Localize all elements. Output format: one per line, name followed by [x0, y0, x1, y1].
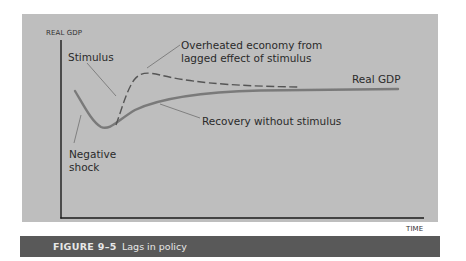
leader-overheated — [147, 45, 180, 68]
annotation-overheated-2: lagged effect of stimulus — [181, 52, 311, 64]
figure-title: Lags in policy — [122, 236, 187, 257]
annotation-negative-1: Negative — [69, 148, 116, 160]
figure-caption: FIGURE 9–5 Lags in policy — [20, 236, 440, 257]
annotation-stimulus: Stimulus — [68, 51, 114, 63]
annotation-overheated-1: Overheated economy from — [181, 39, 322, 51]
leader-recovery — [160, 104, 200, 118]
annotation-recovery: Recovery without stimulus — [202, 115, 341, 127]
y-axis-label: REAL GDP — [46, 29, 82, 37]
annotation-negative-2: shock — [69, 161, 99, 173]
leader-stimulus — [87, 63, 116, 96]
figure-number: FIGURE 9–5 — [53, 236, 117, 257]
x-axis-label: TIME — [406, 225, 423, 233]
annotation-real-gdp: Real GDP — [352, 73, 401, 85]
leader-negative — [74, 115, 81, 143]
